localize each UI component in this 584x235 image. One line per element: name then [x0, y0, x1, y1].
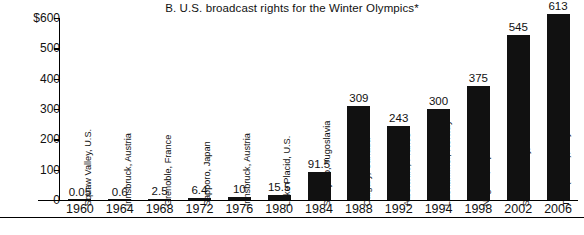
bar-city-label: Nagano, Japan — [482, 144, 491, 206]
y-axis-tick-label: 100 — [12, 163, 60, 177]
x-axis-year-label: 2002 — [504, 202, 532, 216]
y-axis-tick-label: 400 — [12, 72, 60, 86]
x-axis-year-label: 1976 — [225, 202, 253, 216]
x-axis-year-label: 1964 — [106, 202, 134, 216]
bar-city-label: Calgary, Canada — [363, 138, 372, 206]
chart-title: B. U.S. broadcast rights for the Winter … — [0, 2, 584, 14]
bar-city-label: Innsbruck, Austria — [124, 133, 133, 206]
chart-container: B. U.S. broadcast rights for the Winter … — [0, 0, 584, 235]
bar-city-label: Grenoble, France — [163, 135, 172, 207]
x-axis-year-label: 1972 — [186, 202, 214, 216]
y-axis-tick-label: $600 — [12, 11, 60, 25]
bar-city-label: Sarajevo, Yugoslavia — [323, 121, 332, 207]
x-axis-year-label: 1968 — [146, 202, 174, 216]
bar-city-label: Sapporo, Japan — [203, 141, 212, 206]
bar-value-label: 613 — [548, 1, 567, 13]
x-axis-year-label: 2006 — [544, 202, 572, 216]
bar-city-label: Innsbruck, Austria — [243, 133, 252, 206]
bar-value-label: 375 — [469, 73, 488, 85]
x-axis-year-label: 1984 — [305, 202, 333, 216]
y-axis-tick-label: 500 — [12, 41, 60, 55]
x-axis-year-label: 1998 — [464, 202, 492, 216]
bar-value-label: 309 — [349, 93, 368, 105]
x-axis-baseline — [0, 217, 584, 218]
bar-city-label: Lillehammer, Norway — [442, 120, 451, 206]
bar-value-label: 300 — [429, 96, 448, 108]
bar-city-label: Lake Placid, U.S. — [283, 136, 292, 206]
x-axis-year-label: 1960 — [66, 202, 94, 216]
bar-city-label: Turin(Torino), Italy — [562, 133, 571, 207]
bar-city-label: Albertville, France — [402, 133, 411, 207]
x-axis-year-label: 1994 — [425, 202, 453, 216]
x-axis-year-label: 1992 — [385, 202, 413, 216]
x-axis-year-label: 1988 — [345, 202, 373, 216]
bar-city-label: Squaw Valley, U.S. — [84, 129, 93, 206]
y-axis-tick-label: 300 — [12, 102, 60, 116]
bar-value-label: 545 — [509, 22, 528, 34]
y-axis-tick-label: 200 — [12, 132, 60, 146]
bar-city-label: Salt Lake City, U.S. — [522, 127, 531, 206]
bar-value-label: 243 — [389, 113, 408, 125]
x-axis-year-label: 1980 — [265, 202, 293, 216]
